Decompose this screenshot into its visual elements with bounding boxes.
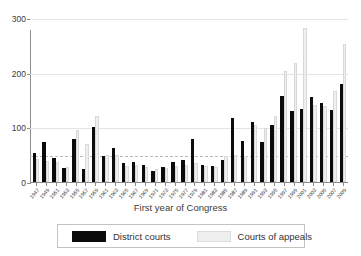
legend-item-courts-of-appeals: Courts of appeals — [197, 231, 312, 242]
bar-courts-of-appeals-1951 — [56, 162, 59, 182]
bar-group-1983 — [209, 18, 219, 182]
bar-courts-of-appeals-1949 — [46, 161, 49, 182]
bar-group-2007 — [328, 18, 338, 182]
bar-group-1969 — [140, 18, 150, 182]
legend-label-district-courts: District courts — [113, 231, 171, 242]
bar-group-1985 — [219, 18, 229, 182]
x-tick-mark-2005 — [318, 183, 328, 186]
bar-courts-of-appeals-1947 — [36, 159, 39, 182]
x-tick-mark-1963 — [110, 183, 120, 186]
bar-group-1979 — [190, 18, 200, 182]
x-tick-mark-1979 — [190, 183, 200, 186]
bar-group-1947 — [31, 18, 41, 182]
x-tick-label-1993: 1993 — [256, 187, 268, 200]
bar-courts-of-appeals-1971 — [155, 169, 158, 182]
bar-group-2009 — [338, 18, 348, 182]
bar-courts-of-appeals-1969 — [145, 167, 148, 182]
bar-group-1997 — [279, 18, 289, 182]
bar-group-1957 — [81, 18, 91, 182]
bar-courts-of-appeals-1975 — [175, 166, 178, 182]
y-tick-label-200: 200 — [12, 70, 26, 78]
chart-legend: District courts Courts of appeals — [57, 224, 305, 248]
x-axis-ticks — [31, 183, 348, 186]
bar-courts-of-appeals-1987 — [234, 155, 237, 182]
bar-group-1951 — [51, 18, 61, 182]
bar-group-1993 — [259, 18, 269, 182]
bar-courts-of-appeals-1953 — [66, 167, 69, 182]
bar-courts-of-appeals-1981 — [204, 166, 207, 182]
legend-item-district-courts: District courts — [72, 231, 171, 242]
legend-label-courts-of-appeals: Courts of appeals — [238, 231, 312, 242]
bar-courts-of-appeals-1999 — [294, 63, 297, 182]
bar-courts-of-appeals-1979 — [194, 163, 197, 182]
bar-group-1955 — [71, 18, 81, 182]
bar-courts-of-appeals-1963 — [115, 155, 118, 182]
bar-courts-of-appeals-1973 — [165, 168, 168, 182]
bar-courts-of-appeals-1995 — [274, 116, 277, 182]
bar-group-1965 — [120, 18, 130, 182]
x-tick-mark-1957 — [81, 183, 91, 186]
y-tick-label-0: 0 — [21, 179, 26, 187]
bar-group-1973 — [160, 18, 170, 182]
bar-group-1949 — [41, 18, 51, 182]
bar-group-1991 — [249, 18, 259, 182]
bar-group-1977 — [180, 18, 190, 182]
bar-courts-of-appeals-1961 — [105, 155, 108, 182]
bar-group-1959 — [90, 18, 100, 182]
bar-group-1961 — [100, 18, 110, 182]
bar-courts-of-appeals-2001 — [303, 28, 306, 182]
x-tick-mark-1959 — [90, 183, 100, 186]
y-tick-label-100: 100 — [12, 124, 26, 132]
bar-group-2003 — [308, 18, 318, 182]
legend-swatch-district-courts — [72, 231, 106, 242]
bar-chart-figure: 3002001000 19471949195119531955195719591… — [0, 0, 361, 256]
bar-courts-of-appeals-2005 — [323, 106, 326, 182]
legend-swatch-courts-of-appeals — [197, 231, 231, 242]
bar-courts-of-appeals-1965 — [125, 166, 128, 182]
bar-courts-of-appeals-1985 — [224, 156, 227, 182]
x-tick-mark-2001 — [298, 183, 308, 186]
bar-courts-of-appeals-1983 — [214, 167, 217, 182]
x-tick-mark-1981 — [199, 183, 209, 186]
y-tick-label-300: 300 — [12, 15, 26, 23]
x-tick-mark-1983 — [209, 183, 219, 186]
bar-group-1963 — [110, 18, 120, 182]
x-axis-title: First year of Congress — [0, 202, 361, 213]
bar-courts-of-appeals-1959 — [95, 116, 98, 182]
bar-courts-of-appeals-1997 — [284, 71, 287, 182]
bar-group-1981 — [199, 18, 209, 182]
bar-group-1989 — [239, 18, 249, 182]
bar-courts-of-appeals-1957 — [85, 144, 88, 182]
x-tick-label-1995: 1995 — [266, 187, 278, 200]
bar-courts-of-appeals-1989 — [244, 156, 247, 182]
bar-group-1987 — [229, 18, 239, 182]
bar-courts-of-appeals-1991 — [254, 125, 257, 182]
bar-courts-of-appeals-2009 — [343, 44, 346, 182]
bar-group-1975 — [170, 18, 180, 182]
plot-area: 3002001000 19471949195119531955195719591… — [30, 18, 348, 183]
bar-group-1999 — [289, 18, 299, 182]
bar-courts-of-appeals-1993 — [264, 128, 267, 182]
bar-group-1953 — [61, 18, 71, 182]
x-tick-label-1973: 1973 — [157, 187, 169, 200]
bar-courts-of-appeals-2007 — [333, 91, 336, 182]
x-tick-label-1951: 1951 — [48, 187, 60, 200]
bar-group-1995 — [269, 18, 279, 182]
bar-courts-of-appeals-2003 — [313, 105, 316, 182]
bar-group-1967 — [130, 18, 140, 182]
bar-group-2001 — [298, 18, 308, 182]
bar-group-1971 — [150, 18, 160, 182]
bars-container — [31, 18, 348, 182]
x-tick-label-1953: 1953 — [58, 187, 70, 200]
bar-group-2005 — [318, 18, 328, 182]
bar-courts-of-appeals-1955 — [76, 130, 79, 182]
x-tick-mark-1961 — [100, 183, 110, 186]
x-tick-label-1975: 1975 — [167, 187, 179, 200]
x-tick-mark-2003 — [308, 183, 318, 186]
bar-courts-of-appeals-1967 — [135, 165, 138, 182]
x-tick-label-1997: 1997 — [276, 187, 288, 200]
bar-courts-of-appeals-1977 — [185, 165, 188, 182]
x-tick-label-2009: 2009 — [335, 187, 347, 200]
